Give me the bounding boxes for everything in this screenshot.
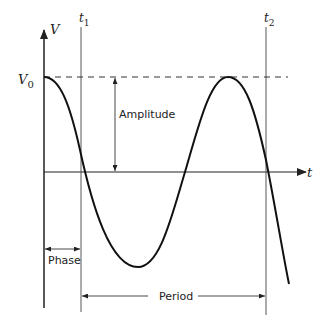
t2-label: t2 <box>264 11 275 28</box>
v-axis-label: V <box>50 22 61 37</box>
sine-wave-diagram: V t V0 t1 t2 Amplitude Phase Period <box>0 0 324 329</box>
amplitude-label: Amplitude <box>119 108 176 121</box>
t-axis-label: t <box>307 165 313 180</box>
period-label: Period <box>159 290 193 303</box>
t1-label: t1 <box>79 11 90 28</box>
v0-label: V0 <box>18 72 34 90</box>
phase-label: Phase <box>48 254 81 267</box>
